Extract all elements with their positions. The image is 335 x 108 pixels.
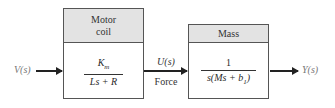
motor-tf-denominator: Ls + R [84, 74, 123, 88]
motor-coil-title-line2: coil [96, 26, 111, 38]
mass-tf-denominator: s(Ms + b1) [201, 70, 256, 88]
mass-transfer-function: 1 s(Ms + b1) [189, 57, 268, 88]
output-signal-label: Y(s) [302, 64, 318, 75]
mass-title: Mass [218, 28, 239, 40]
force-description: Force [146, 76, 186, 87]
motor-tf-numerator: Km [92, 57, 116, 74]
input-signal-label: V(s) [14, 64, 31, 75]
motor-coil-block: Motor coil Km Ls + R [63, 8, 144, 99]
mass-block: Mass 1 s(Ms + b1) [188, 24, 269, 99]
motor-coil-title-line1: Motor [91, 14, 116, 26]
force-arrow [144, 70, 187, 72]
force-signal-label: U(s) [148, 56, 184, 67]
motor-transfer-function: Km Ls + R [64, 57, 143, 88]
input-arrow [36, 70, 62, 72]
output-arrow [270, 70, 298, 72]
mass-header: Mass [189, 25, 268, 43]
motor-coil-header: Motor coil [64, 9, 143, 43]
mass-tf-numerator: 1 [220, 57, 237, 70]
